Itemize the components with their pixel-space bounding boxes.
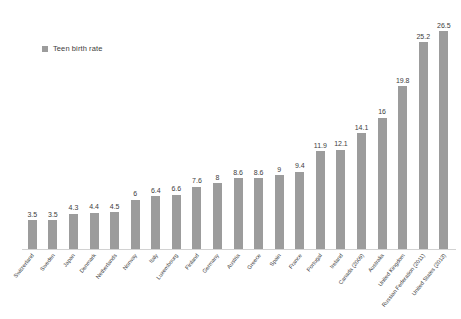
x-axis-tick: Germany	[207, 250, 228, 319]
x-axis-tick: Netherlands	[104, 250, 125, 319]
bar-item: 4.5	[104, 8, 125, 249]
x-axis-tick: Norway	[125, 250, 146, 319]
bar-value-label: 19.8	[396, 77, 410, 84]
bar-rect	[234, 178, 243, 249]
x-axis-tick: Greece	[248, 250, 269, 319]
bar-value-label: 14.1	[355, 124, 369, 131]
bar-value-label: 6	[133, 190, 137, 197]
bar-rect	[254, 178, 263, 249]
bar-rect	[90, 213, 99, 249]
bar-item: 16	[372, 8, 393, 249]
bar-value-label: 4.5	[110, 203, 120, 210]
x-axis-tick-text: Portugal	[307, 253, 324, 273]
bar-rect	[357, 133, 366, 249]
x-axis-tick: Italy	[145, 250, 166, 319]
x-axis-tick-text: Austria	[226, 253, 241, 270]
bar-value-label: 16	[378, 108, 386, 115]
x-axis-tick-text: Japan	[63, 253, 77, 268]
x-axis-tick-text: Sweden	[39, 253, 56, 272]
x-axis-tick: Spain	[269, 250, 290, 319]
bar-rect	[295, 172, 304, 249]
bar-item: 8.6	[228, 8, 249, 249]
bar-value-label: 3.5	[27, 211, 37, 218]
x-axis-tick-text: Finland	[185, 253, 201, 271]
bar-value-label: 8.6	[233, 169, 243, 176]
bar-rect	[172, 195, 181, 249]
x-axis-tick: Sweden	[43, 250, 64, 319]
x-axis-tick-text: Greece	[246, 253, 262, 271]
bar-group: 3.53.54.34.44.566.46.67.688.68.699.411.9…	[22, 8, 454, 249]
x-axis-tick-text: France	[288, 253, 303, 270]
bar-item: 9.4	[290, 8, 311, 249]
bar-value-label: 9.4	[295, 162, 305, 169]
bar-item: 3.5	[22, 8, 43, 249]
bar-rect	[69, 214, 78, 249]
bar-item: 6.4	[145, 8, 166, 249]
bar-rect	[336, 150, 345, 249]
bar-rect	[110, 212, 119, 249]
x-axis-tick-text: Switzerland	[13, 253, 35, 279]
bar-rect	[398, 86, 407, 249]
bar-rect	[213, 183, 222, 249]
bar-item: 19.8	[392, 8, 413, 249]
x-axis-tick: France	[290, 250, 311, 319]
x-axis-tick: Canada (2009)	[351, 250, 372, 319]
bar-rect	[151, 196, 160, 249]
bar-value-label: 11.9	[314, 142, 327, 149]
x-axis-tick: Luxembourg	[166, 250, 187, 319]
bar-value-label: 4.3	[69, 204, 79, 211]
bar-item: 11.9	[310, 8, 331, 249]
bar-item: 8	[207, 8, 228, 249]
bar-item: 4.4	[84, 8, 105, 249]
x-axis-tick-text: Ireland	[329, 253, 344, 270]
bar-item: 9	[269, 8, 290, 249]
bar-rect	[28, 220, 37, 249]
bar-rect	[316, 151, 325, 249]
x-axis-tick: Portugal	[310, 250, 331, 319]
bar-item: 26.5	[434, 8, 455, 249]
bar-value-label: 7.6	[192, 177, 202, 184]
bar-item: 6	[125, 8, 146, 249]
bar-value-label: 4.4	[89, 203, 99, 210]
bar-value-label: 9	[277, 166, 281, 173]
bar-rect	[275, 175, 284, 249]
x-axis-tick: Finland	[187, 250, 208, 319]
bar-value-label: 3.5	[48, 211, 58, 218]
x-axis-tick-text: Spain	[269, 253, 282, 268]
x-axis-tick: Austria	[228, 250, 249, 319]
bar-rect	[439, 31, 448, 249]
bar-chart: Teen birth rate 3.53.54.34.44.566.46.67.…	[0, 0, 461, 319]
x-axis-tick: Denmark	[84, 250, 105, 319]
plot-area: 3.53.54.34.44.566.46.67.688.68.699.411.9…	[22, 8, 454, 249]
bar-rect	[419, 42, 428, 249]
bar-rect	[131, 200, 140, 249]
x-axis-tick: Switzerland	[22, 250, 43, 319]
bar-item: 8.6	[248, 8, 269, 249]
bar-value-label: 25.2	[416, 33, 430, 40]
bar-item: 3.5	[43, 8, 64, 249]
bar-rect	[192, 187, 201, 249]
bar-value-label: 6.4	[151, 187, 161, 194]
bar-value-label: 26.5	[437, 22, 451, 29]
bar-value-label: 12.1	[334, 140, 348, 147]
bar-value-label: 8	[216, 174, 220, 181]
bar-value-label: 6.6	[171, 185, 181, 192]
x-axis-tick-text: Norway	[122, 253, 138, 271]
x-axis-labels: SwitzerlandSwedenJapanDenmarkNetherlands…	[22, 250, 454, 319]
x-axis-tick-text: Italy	[148, 253, 159, 265]
x-axis-tick: Japan	[63, 250, 84, 319]
bar-item: 4.3	[63, 8, 84, 249]
bar-item: 14.1	[351, 8, 372, 249]
bar-item: 12.1	[331, 8, 352, 249]
bar-item: 7.6	[187, 8, 208, 249]
x-axis-tick: United States (2013)	[434, 250, 455, 319]
bar-item: 25.2	[413, 8, 434, 249]
bar-item: 6.6	[166, 8, 187, 249]
bar-value-label: 8.6	[254, 169, 264, 176]
